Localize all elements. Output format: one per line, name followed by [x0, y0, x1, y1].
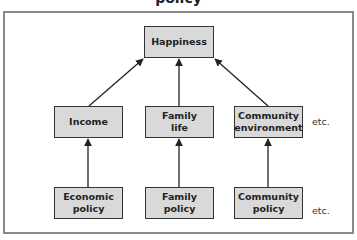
node-label: Income — [69, 116, 108, 128]
node-label: Community policy — [235, 191, 302, 215]
arrow-income-to-happiness — [89, 59, 143, 106]
node-family-life: Family life — [145, 106, 214, 138]
node-community-policy: Community policy — [234, 187, 303, 219]
node-income: Income — [54, 106, 123, 138]
node-label: Economic policy — [55, 191, 122, 215]
node-label: Family policy — [160, 191, 199, 215]
node-family-policy: Family policy — [145, 187, 214, 219]
node-label: Happiness — [151, 36, 207, 48]
node-community-environment: Community environment — [234, 106, 303, 138]
node-label: Family life — [160, 110, 199, 134]
node-economic-policy: Economic policy — [54, 187, 123, 219]
etc-label-bottom: etc. — [312, 205, 330, 216]
node-label: Community environment — [234, 110, 302, 134]
etc-label-middle: etc. — [312, 116, 330, 127]
node-happiness: Happiness — [144, 26, 214, 58]
arrow-community-to-happiness — [215, 59, 268, 106]
